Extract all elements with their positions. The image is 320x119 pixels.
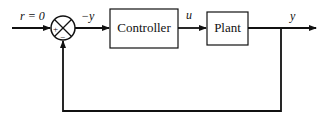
plus-sign: + bbox=[53, 24, 58, 34]
summing-junction: + − bbox=[51, 16, 75, 42]
output-label: y bbox=[289, 9, 296, 23]
controller-label: Controller bbox=[117, 20, 171, 35]
error-label: −y bbox=[81, 9, 95, 23]
reference-label: r = 0 bbox=[20, 9, 45, 23]
controller-block: Controller bbox=[110, 9, 178, 48]
minus-sign: − bbox=[60, 32, 65, 42]
plant-block: Plant bbox=[207, 12, 248, 45]
block-diagram: r = 0 + − −y Controller u Plant y bbox=[0, 0, 320, 119]
plant-label: Plant bbox=[214, 20, 241, 35]
control-label: u bbox=[186, 8, 192, 22]
